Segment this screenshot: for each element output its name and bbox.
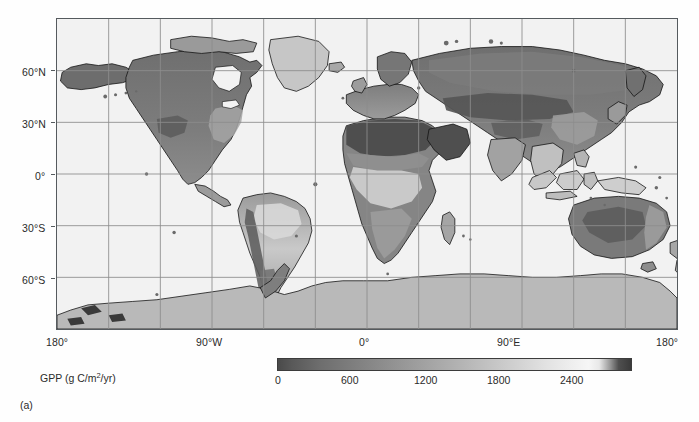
xtick-label-180w: 180° (46, 336, 68, 348)
ytick-label-60n: 60°N (22, 66, 46, 78)
ytick-mark-30s (51, 226, 55, 227)
colorbar-axis-title: GPP (g C/m2/yr) (40, 372, 116, 384)
gpp-figure: 60°N 30°N 0° 30°S 60°S 180° 90°W 0° 90°E… (0, 0, 699, 422)
panel-letter-a: (a) (20, 399, 33, 411)
xtick-label-0: 0° (359, 336, 369, 348)
colorbar-title-suffix: /yr) (101, 372, 116, 384)
ytick-label-30s: 30°S (22, 222, 45, 234)
colorbar-container (277, 358, 632, 371)
ytick-mark-30n (51, 122, 55, 123)
xtick-label-90w: 90°W (196, 336, 222, 348)
ytick-label-60s: 60°S (22, 274, 45, 286)
colorbar-tick-1200: 1200 (414, 374, 437, 386)
colorbar-tick-0: 0 (275, 374, 281, 386)
colorbar-tick-2400: 2400 (560, 374, 583, 386)
ytick-label-30n: 30°N (22, 118, 46, 130)
colorbar-tick-1800: 1800 (487, 374, 510, 386)
world-map-svg (57, 19, 677, 329)
xtick-label-180e: 180° (656, 336, 678, 348)
colorbar-tick-600: 600 (341, 374, 359, 386)
world-map-panel (56, 18, 678, 330)
ytick-label-0: 0° (35, 170, 45, 182)
colorbar-gradient (277, 358, 632, 371)
xtick-label-90e: 90°E (497, 336, 520, 348)
ytick-mark-60s (51, 278, 55, 279)
colorbar-title-prefix: GPP (g C/m (40, 372, 96, 384)
ytick-mark-0 (51, 174, 55, 175)
ytick-mark-60n (51, 70, 55, 71)
